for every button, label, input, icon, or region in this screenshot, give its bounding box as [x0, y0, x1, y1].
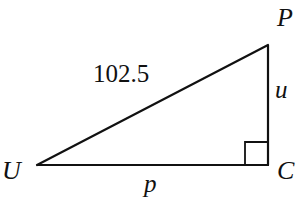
- vertex-label-c: C: [277, 156, 295, 185]
- right-triangle-diagram: P C U 102.5 u p: [0, 0, 297, 197]
- right-angle-marker-icon: [245, 142, 268, 165]
- vertex-label-p: P: [276, 3, 293, 32]
- vertex-label-u: U: [2, 156, 23, 185]
- hypotenuse-line: [37, 45, 268, 165]
- side-label-u: u: [275, 76, 288, 103]
- hypotenuse-length-label: 102.5: [93, 60, 149, 87]
- side-label-p: p: [142, 170, 157, 197]
